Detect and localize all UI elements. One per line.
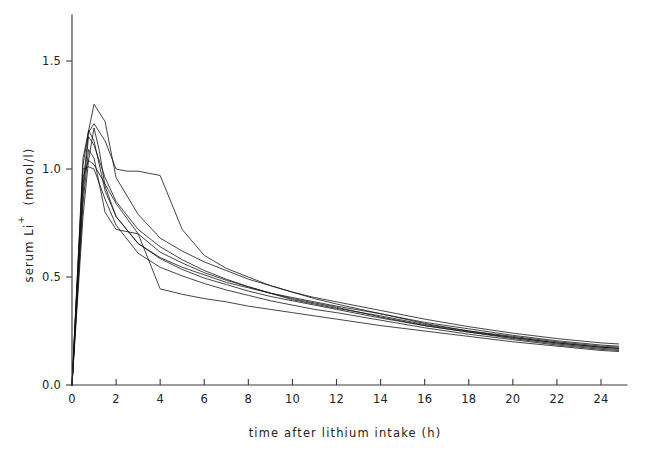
- y-axis-title-units: (mmol/l): [22, 148, 36, 206]
- y-tick-label: 0.5: [42, 270, 61, 284]
- chart-background: [0, 0, 646, 455]
- y-tick-label: 0.0: [42, 378, 61, 392]
- x-tick-label: 12: [329, 392, 344, 406]
- x-tick-label: 8: [245, 392, 253, 406]
- x-tick-label: 16: [417, 392, 432, 406]
- x-tick-label: 2: [112, 392, 120, 406]
- x-tick-label: 14: [373, 392, 388, 406]
- x-tick-label: 0: [68, 392, 76, 406]
- x-tick-label: 20: [505, 392, 520, 406]
- x-tick-label: 22: [549, 392, 564, 406]
- x-tick-label: 18: [461, 392, 476, 406]
- y-tick-label: 1.0: [42, 162, 61, 176]
- x-tick-label: 4: [156, 392, 164, 406]
- y-axis-title-main: serum Li: [22, 224, 36, 283]
- y-tick-label: 1.5: [42, 54, 61, 68]
- x-tick-label: 10: [285, 392, 300, 406]
- x-tick-label: 6: [200, 392, 208, 406]
- y-axis-title-superscript: +: [16, 215, 26, 224]
- x-axis-title: time after lithium intake (h): [249, 426, 442, 440]
- serum-lithium-line-chart: 0.00.51.01.5 024681012141618202224 time …: [0, 0, 646, 455]
- x-tick-label: 24: [593, 392, 608, 406]
